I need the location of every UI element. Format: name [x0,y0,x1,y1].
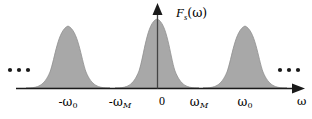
tick-subscript: M [123,101,131,110]
y-axis-arrowhead [153,3,163,15]
y-axis-title: Fs(ω) [176,6,207,21]
spectrum-figure: Fs(ω) ω -ω0 -ωM 0 ωM ω0 [0,0,312,119]
y-axis-title-symbol: F [176,5,184,20]
spectrum-plot-canvas [0,0,312,119]
x-tick-label-pos-omega-m: ωM [190,96,208,110]
x-axis-title: ω [297,96,306,108]
x-axis-arrowhead [292,84,305,94]
x-tick-label-zero: 0 [159,95,165,107]
ellipsis-right-icon [278,68,300,72]
tick-base: ω [237,95,247,109]
spectrum-lobe-negative-replica [26,26,110,88]
x-tick-label-pos-omega-0: ω0 [237,96,252,110]
tick-base: -ω [109,95,123,109]
tick-subscript: 0 [73,101,78,110]
spectrum-lobe-positive-replica [203,26,287,88]
x-tick-label-neg-omega-0: -ω0 [58,96,77,110]
ellipsis-left-icon [8,68,30,72]
tick-base: -ω [58,95,72,109]
tick-base: 0 [159,94,165,108]
tick-base: ω [190,95,200,109]
x-tick-label-neg-omega-m: -ωM [109,96,131,110]
tick-subscript: M [200,101,208,110]
tick-subscript: 0 [248,101,253,110]
y-axis-title-argument: (ω) [187,5,207,20]
